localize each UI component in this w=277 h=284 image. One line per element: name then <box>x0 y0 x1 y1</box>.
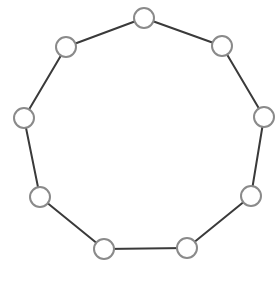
graph-node-n7 <box>30 187 50 207</box>
edge-n7-n8 <box>24 118 40 197</box>
graph-node-n4 <box>241 186 261 206</box>
edge-n6-n7 <box>40 197 104 249</box>
graph-node-n5 <box>177 238 197 258</box>
edge-n5-n6 <box>104 248 187 249</box>
cycle-graph-diagram <box>0 0 277 284</box>
graph-node-n1 <box>134 8 154 28</box>
edge-n9-n1 <box>66 18 144 47</box>
edge-n4-n5 <box>187 196 251 248</box>
graph-node-n9 <box>56 37 76 57</box>
edge-n8-n9 <box>24 47 66 118</box>
node-layer <box>14 8 274 259</box>
edge-n3-n4 <box>251 117 264 196</box>
edge-n1-n2 <box>144 18 222 46</box>
graph-node-n8 <box>14 108 34 128</box>
graph-node-n2 <box>212 36 232 56</box>
graph-node-n3 <box>254 107 274 127</box>
edge-n2-n3 <box>222 46 264 117</box>
graph-node-n6 <box>94 239 114 259</box>
